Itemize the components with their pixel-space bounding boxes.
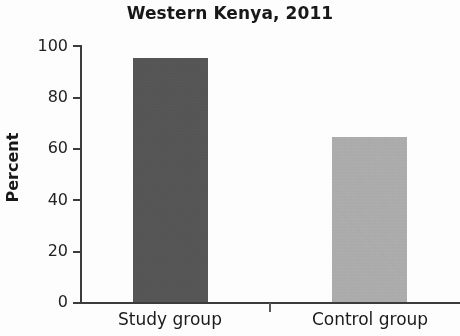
bar-control-group-texture — [332, 137, 407, 303]
y-tick-label-100: 100 — [8, 38, 68, 54]
bar-study-group — [133, 58, 208, 303]
chart-figure: Western Kenya, 2011 Percent 100 80 60 40… — [0, 0, 460, 336]
bar-control-group — [332, 137, 407, 303]
y-tick-label-0: 0 — [8, 294, 68, 310]
y-tick-label-20: 20 — [8, 243, 68, 259]
x-tick-category-separator — [269, 303, 271, 312]
y-tick-label-80: 80 — [8, 89, 68, 105]
plot-area: 100 80 60 40 20 0 Study group Control gr… — [0, 0, 460, 336]
x-category-label-control-group: Control group — [280, 309, 460, 329]
y-tick-label-60: 60 — [8, 140, 68, 156]
x-category-label-study-group: Study group — [80, 309, 260, 329]
bar-study-group-texture — [133, 58, 208, 303]
y-tick-label-40: 40 — [8, 192, 68, 208]
y-axis-line — [80, 45, 82, 304]
